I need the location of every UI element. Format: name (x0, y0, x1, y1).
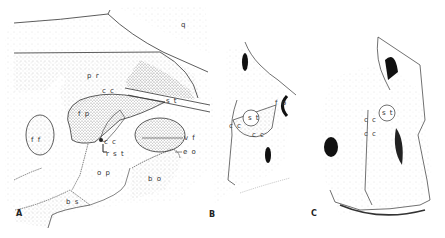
label-st: s t (166, 98, 178, 105)
label-fp: f p (78, 111, 90, 118)
label-cc-2: c c (104, 139, 117, 146)
label-q: q (181, 22, 186, 29)
label-rst: r s t (106, 151, 125, 158)
label-op: o p (97, 170, 111, 177)
label-cc-b2: c c (252, 132, 265, 139)
label-st-b: s t (248, 115, 260, 122)
label-vf: v f (184, 135, 196, 142)
panel-label-b: B (209, 211, 215, 219)
label-cc-c1: c c (364, 117, 377, 124)
label-cc-b1: c c (229, 123, 242, 130)
label-bo: b o (148, 176, 162, 183)
panel-a-drawing (5, 5, 215, 228)
label-cc: c c (102, 88, 115, 95)
label-cc-c2: c c (364, 131, 377, 138)
panel-label-a: A (16, 210, 22, 218)
panel-label-c: C (311, 210, 317, 218)
label-ff: f f (31, 137, 41, 144)
label-bs: b s (66, 199, 79, 206)
panel-c-drawing (320, 37, 432, 215)
panel-b-drawing (210, 42, 296, 205)
label-fp-b: f p (275, 100, 287, 107)
label-pr: p r (87, 73, 100, 80)
label-eo: e o (183, 149, 197, 156)
label-st-c: s t (382, 110, 394, 117)
